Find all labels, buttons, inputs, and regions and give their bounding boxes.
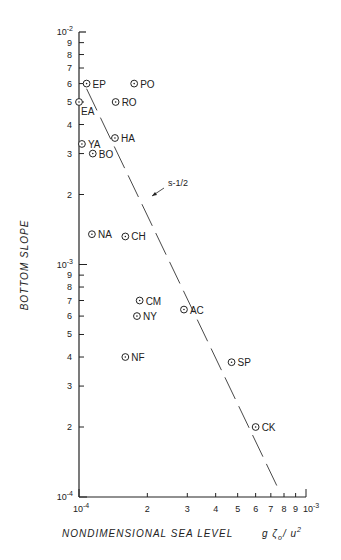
data-point-label: CM (146, 296, 162, 307)
y-tick-label: 7 (67, 63, 72, 73)
log-log-scatter-chart: 10-42345678910-32345678910-210-423456789… (0, 0, 341, 560)
data-point-label: PO (140, 79, 155, 90)
x-tick-label: 5 (235, 504, 240, 514)
y-tick-label: 5 (67, 329, 72, 339)
y-tick-label: 5 (67, 97, 72, 107)
data-point-center (125, 356, 127, 358)
x-tick-label: 7 (268, 504, 273, 514)
x-axis-formula: g ζo/ u2 (262, 526, 302, 541)
x-tick-label: 8 (281, 504, 286, 514)
y-tick-label: 10-4 (57, 490, 73, 502)
data-point-label: HA (121, 133, 135, 144)
data-point-label: CK (262, 422, 276, 433)
x-tick-label: 9 (293, 504, 298, 514)
y-tick-label: 6 (67, 311, 72, 321)
data-point-label: SP (238, 357, 252, 368)
data-point-center (114, 137, 116, 139)
y-tick-label: 2 (67, 190, 72, 200)
data-point-label: NA (98, 229, 112, 240)
data-point-center (91, 233, 93, 235)
data-point-label: RO (122, 97, 137, 108)
x-tick-label: 10-3 (303, 502, 319, 514)
y-tick-label: 9 (67, 38, 72, 48)
data-point-center (255, 426, 257, 428)
y-tick-label: 4 (67, 120, 72, 130)
data-point-center (136, 315, 138, 317)
data-point-label: NY (143, 311, 157, 322)
fit-line-label: s-1/2 (168, 178, 188, 188)
data-point-center (125, 236, 127, 238)
y-tick-label: 6 (67, 79, 72, 89)
data-point-label: EA (81, 106, 95, 117)
fit-line (87, 89, 278, 488)
y-tick-label: 3 (67, 149, 72, 159)
arrow-head-icon (152, 192, 157, 196)
x-tick-label: 10-4 (73, 502, 89, 514)
x-tick-label: 6 (253, 504, 258, 514)
y-tick-label: 3 (67, 381, 72, 391)
data-point-center (231, 361, 233, 363)
data-point-label: AC (190, 305, 204, 316)
data-point-center (115, 101, 117, 103)
data-point-label: BO (99, 149, 114, 160)
x-axis-label: NONDIMENSIONAL SEA LEVEL (62, 528, 233, 539)
data-point-label: EP (93, 79, 107, 90)
y-axis-label: BOTTOM SLOPE (19, 220, 30, 311)
x-tick-label: 2 (145, 504, 150, 514)
data-point-center (183, 309, 185, 311)
data-point-center (81, 143, 83, 145)
y-tick-label: 10-2 (57, 25, 73, 37)
x-tick-label: 4 (213, 504, 218, 514)
data-point-center (92, 153, 94, 155)
x-tick-label: 3 (185, 504, 190, 514)
y-tick-label: 10-3 (57, 258, 73, 270)
y-tick-label: 9 (67, 270, 72, 280)
y-tick-label: 8 (67, 282, 72, 292)
data-point-label: NF (131, 352, 144, 363)
data-point-label: CH (131, 231, 145, 242)
y-tick-label: 8 (67, 50, 72, 60)
data-point-center (133, 83, 135, 85)
y-tick-label: 2 (67, 422, 72, 432)
data-point-center (78, 101, 80, 103)
data-point-center (86, 83, 88, 85)
y-tick-label: 4 (67, 352, 72, 362)
y-tick-label: 7 (67, 296, 72, 306)
data-point-center (139, 300, 141, 302)
